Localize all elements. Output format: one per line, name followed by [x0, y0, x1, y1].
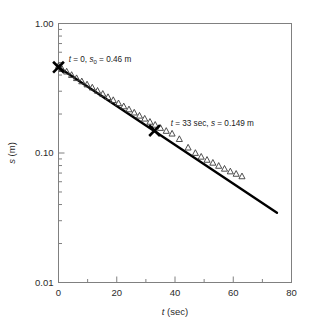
data-point-triangle — [227, 168, 233, 174]
x-tick-label: 80 — [286, 287, 297, 298]
fitted-decay-line — [59, 67, 277, 213]
data-point-triangle — [210, 160, 216, 166]
data-point-triangle — [233, 171, 239, 177]
y-tick-label: 1.00 — [35, 18, 54, 29]
y-tick-label: 0.10 — [35, 147, 54, 158]
y-axis-title: s (m) — [6, 142, 17, 164]
y-axis-minor-ticks — [59, 29, 63, 243]
data-point-triangle — [239, 173, 245, 179]
figure-root: 1.000.100.01 020406080 t = 0, s0 = 0.46 … — [0, 0, 317, 329]
decay-plot-chart: 1.000.100.01 020406080 t = 0, s0 = 0.46 … — [0, 0, 317, 329]
data-point-triangle — [185, 144, 191, 150]
data-point-triangle — [204, 157, 210, 163]
x-axis-tick-labels: 020406080 — [56, 287, 297, 298]
annotation-reference-label: t = 33 sec, s = 0.149 m — [171, 119, 254, 128]
x-tick-label: 20 — [111, 287, 122, 298]
annotation-initial-label: t = 0, s0 = 0.46 m — [69, 55, 132, 65]
data-point-triangle — [216, 163, 222, 169]
data-point-triangle — [198, 153, 204, 159]
data-point-triangle — [163, 128, 169, 134]
x-tick-label: 0 — [56, 287, 61, 298]
x-axis-title: t (sec) — [162, 306, 188, 317]
y-tick-label: 0.01 — [35, 277, 54, 288]
y-axis-tick-labels: 1.000.100.01 — [35, 18, 54, 288]
data-point-triangle — [169, 130, 175, 136]
data-point-triangle — [176, 136, 182, 142]
data-point-triangle — [192, 150, 198, 156]
x-tick-label: 40 — [170, 287, 181, 298]
data-point-triangle — [221, 166, 227, 172]
x-axis-major-ticks — [59, 277, 292, 283]
x-tick-label: 60 — [228, 287, 239, 298]
